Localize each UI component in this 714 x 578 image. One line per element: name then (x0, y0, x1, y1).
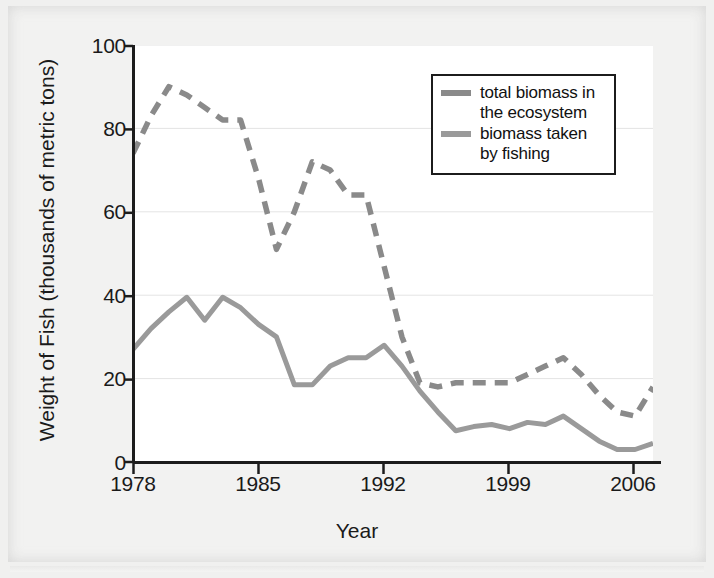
legend-item-biomass-fishing: biomass taken by fishing (441, 124, 606, 164)
legend-swatch-solid-icon (441, 131, 471, 137)
x-tick-label: 1978 (88, 472, 178, 496)
legend-label-line-2: by fishing (480, 144, 550, 163)
legend-label-line-2: the ecosystem (480, 103, 587, 122)
legend-label-line-1: biomass taken (480, 124, 587, 143)
x-axis-tick-labels: 1978 1985 1992 1999 2006 (0, 472, 714, 512)
chart-figure: Weight of Fish (thousands of metric tons… (0, 0, 714, 578)
x-tick-label: 2006 (588, 472, 678, 496)
legend-label-line-1: total biomass in (480, 83, 595, 102)
legend-label: biomass taken by fishing (480, 124, 587, 164)
x-tick-label: 1992 (338, 472, 428, 496)
chart-legend: total biomass in the ecosystem biomass t… (431, 74, 616, 175)
legend-label: total biomass in the ecosystem (480, 83, 595, 123)
x-tick-label: 1999 (463, 472, 553, 496)
legend-item-total-biomass: total biomass in the ecosystem (441, 83, 606, 123)
x-tick-label: 1985 (213, 472, 303, 496)
legend-swatch-dashed-icon (441, 90, 471, 96)
x-axis-title: Year (0, 519, 714, 543)
